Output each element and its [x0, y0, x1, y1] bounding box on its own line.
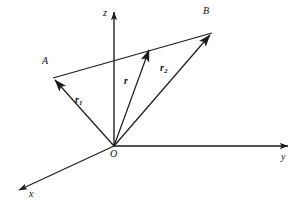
axis-label-y: y [281, 152, 285, 162]
vector-diagram-figure: z y x O A B r1 r2 r [0, 0, 295, 212]
vector-label-r1: r1 [75, 95, 82, 105]
vector-label-r1-subscript: 1 [79, 99, 83, 107]
vector-label-r2-subscript: 2 [164, 67, 168, 75]
vector-line-r [114, 50, 149, 146]
vector-group [55, 35, 210, 146]
axis-label-x: x [29, 189, 33, 199]
vector-label-r: r [124, 76, 128, 86]
point-label-o: O [110, 149, 117, 159]
axis-line-x [19, 146, 114, 190]
vector-line-r2 [114, 35, 210, 146]
point-label-a: A [42, 56, 48, 66]
diagram-canvas [0, 0, 295, 212]
segment-group [53, 33, 212, 78]
axis-label-z: z [103, 8, 107, 18]
vector-label-r2: r2 [160, 63, 167, 73]
vector-label-r-base: r [124, 75, 128, 86]
segment-line-ab [53, 33, 212, 78]
vector-line-r1 [55, 80, 114, 146]
point-label-b: B [203, 6, 209, 16]
